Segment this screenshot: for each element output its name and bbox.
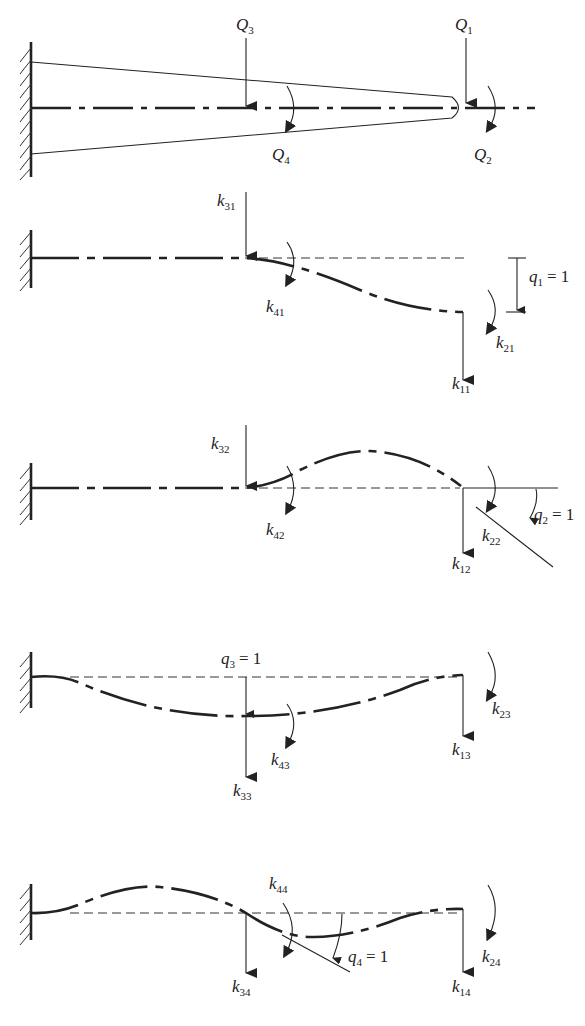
label-k43: k43: [271, 750, 290, 771]
label-Q3: Q3: [236, 15, 254, 36]
beam-stiffness-diagram: Q3 Q1 Q4 Q2 k31 k41 k21 k11 q1= 1: [0, 0, 585, 1026]
panel-q1: k31 k41 k21 k11 q1= 1: [20, 191, 569, 395]
panel-q3: q3= 1 k43 k33 k23 k13: [20, 649, 511, 802]
moment-arrow-k43: [287, 704, 294, 744]
label-k24: k24: [482, 947, 501, 968]
label-q2-unit: q2= 1: [534, 505, 574, 526]
panel-q2: k32 k42 k22 k12 q2= 1: [20, 425, 574, 575]
label-k22: k22: [482, 526, 501, 547]
label-q4-unit: q4= 1: [348, 947, 388, 968]
fixed-support-icon: [20, 652, 31, 713]
moment-arrow-k41: [287, 242, 294, 282]
label-k44: k44: [269, 874, 288, 895]
fixed-support-icon: [20, 230, 31, 291]
label-k33: k33: [233, 781, 252, 802]
deflected-beam: [31, 887, 463, 937]
label-k13: k13: [452, 740, 471, 761]
fixed-support-icon: [20, 463, 31, 525]
label-k41: k41: [266, 297, 285, 318]
label-k23: k23: [492, 699, 511, 720]
label-Q4: Q4: [272, 145, 290, 166]
fixed-support-icon: [20, 42, 31, 180]
label-k21: k21: [496, 333, 515, 354]
moment-arrow-k21: [488, 290, 495, 330]
label-k11: k11: [452, 374, 470, 395]
label-k32: k32: [211, 434, 230, 455]
label-Q1: Q1: [455, 15, 473, 36]
moment-arrow-k24: [488, 885, 495, 936]
rotation-line: [282, 935, 350, 972]
label-k42: k42: [266, 520, 285, 541]
label-k12: k12: [452, 554, 471, 575]
moment-arrow-k22: [488, 466, 495, 508]
label-k34: k34: [232, 977, 251, 998]
deflected-beam: [31, 258, 463, 312]
label-k31: k31: [217, 191, 236, 212]
deflected-beam: [31, 675, 463, 716]
label-Q2: Q2: [474, 145, 492, 166]
label-q3-unit: q3= 1: [221, 649, 261, 670]
label-k14: k14: [452, 977, 471, 998]
label-q1-unit: q1= 1: [529, 267, 569, 288]
fixed-support-icon: [20, 884, 31, 945]
panel-q4: k44 k34 q4= 1 k24 k14: [20, 874, 501, 998]
moment-arrow-k44: [283, 903, 292, 953]
panel-loads: Q3 Q1 Q4 Q2: [20, 15, 535, 180]
displacement-indicator-q1: [506, 258, 526, 312]
moment-arrow-k23: [488, 652, 495, 697]
